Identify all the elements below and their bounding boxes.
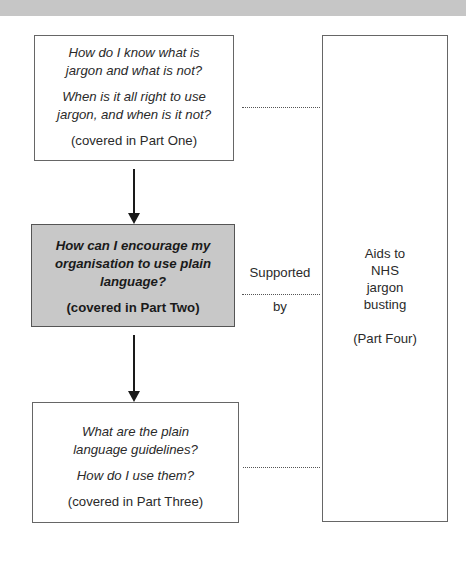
question-text: What are the plain: [33, 423, 238, 441]
question-text: How do I use them?: [33, 467, 238, 485]
question-text: organisation to use plain: [32, 255, 234, 273]
part-note: (covered in Part Three): [33, 493, 238, 511]
question-text: language guidelines?: [33, 441, 238, 459]
question-text: When is it all right to use: [35, 88, 233, 106]
connector-label-supported: Supported: [240, 265, 320, 280]
part-note: (covered in Part One): [35, 132, 233, 150]
aids-text: busting: [323, 296, 447, 313]
aids-text: Aids to: [323, 245, 447, 262]
arrow-down-icon: [133, 335, 135, 393]
question-text: How can I encourage my: [32, 237, 234, 255]
aids-text: NHS: [323, 262, 447, 279]
dotted-connector: [243, 467, 320, 468]
header-band: [0, 0, 466, 16]
dotted-connector: [242, 294, 320, 295]
aids-text: jargon: [323, 279, 447, 296]
arrowhead-icon: [128, 391, 140, 402]
arrowhead-icon: [128, 213, 140, 224]
part-three-box: What are the plain language guidelines? …: [32, 402, 239, 523]
part-four-box: Aids to NHS jargon busting (Part Four): [322, 35, 448, 522]
question-text: How do I know what is: [35, 44, 233, 62]
part-one-box: How do I know what is jargon and what is…: [34, 35, 234, 161]
question-text: jargon and what is not?: [35, 62, 233, 80]
part-note: (covered in Part Two): [32, 299, 234, 317]
question-text: language?: [32, 273, 234, 291]
part-two-box: How can I encourage my organisation to u…: [31, 224, 235, 327]
dotted-connector: [242, 107, 320, 108]
arrow-down-icon: [133, 169, 135, 215]
connector-label-by: by: [240, 299, 320, 314]
question-text: jargon, and when is it not?: [35, 106, 233, 124]
part-note: (Part Four): [323, 330, 447, 347]
